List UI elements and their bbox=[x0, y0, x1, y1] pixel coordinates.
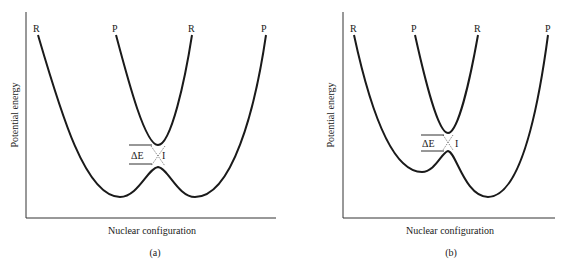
delta-e-label: ΔE bbox=[131, 150, 144, 161]
upper-surface-curve bbox=[116, 35, 192, 145]
panel-caption: (b) bbox=[445, 247, 457, 259]
curve-label-p-left: P bbox=[411, 23, 417, 34]
curve-label-r-right: R bbox=[188, 23, 195, 34]
curve-label-p-right: P bbox=[261, 23, 267, 34]
lower-surface-curve bbox=[38, 35, 266, 197]
lower-surface-curve bbox=[354, 35, 548, 197]
panel-b: ΔE I R P R P Nuclear configuration Poten… bbox=[325, 12, 555, 259]
x-axis-title: Nuclear configuration bbox=[108, 225, 196, 236]
intersection-label: I bbox=[162, 150, 165, 161]
panel-caption: (a) bbox=[149, 247, 160, 259]
curve-label-r-right: R bbox=[474, 23, 481, 34]
curve-label-p-right: P bbox=[545, 23, 551, 34]
curve-label-p-left: P bbox=[112, 23, 118, 34]
intersection-label: I bbox=[455, 138, 458, 149]
curve-label-r-left: R bbox=[33, 23, 40, 34]
y-axis-title: Potential energy bbox=[325, 82, 336, 147]
delta-e-label: ΔE bbox=[422, 138, 435, 149]
diabatic-crossing-dotted bbox=[443, 135, 453, 150]
y-axis-title: Potential energy bbox=[9, 82, 20, 147]
curve-label-r-left: R bbox=[350, 23, 357, 34]
upper-surface-curve bbox=[415, 35, 478, 133]
x-axis-title: Nuclear configuration bbox=[406, 225, 494, 236]
panel-a: ΔE I R P R P Nuclear configuration Poten… bbox=[9, 12, 276, 259]
potential-energy-diagrams: ΔE I R P R P Nuclear configuration Poten… bbox=[0, 0, 571, 268]
